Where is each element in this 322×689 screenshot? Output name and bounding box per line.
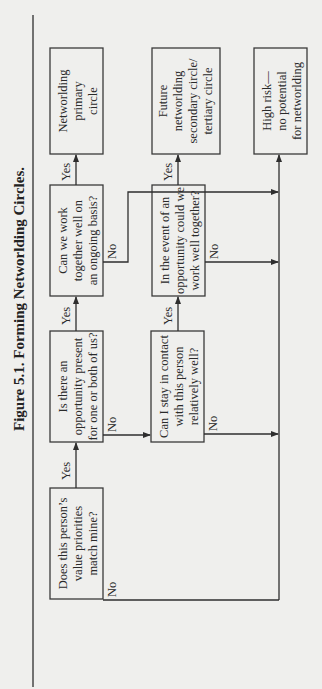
svg-text:for networlding: for networlding bbox=[290, 61, 304, 140]
edge-label-yes: Yes bbox=[59, 163, 73, 181]
svg-text:opportunity could we: opportunity could we bbox=[173, 187, 187, 294]
svg-text:High risk—: High risk— bbox=[260, 71, 274, 131]
svg-text:In the event of an: In the event of an bbox=[158, 196, 172, 284]
svg-text:primary: primary bbox=[71, 80, 85, 120]
svg-text:Does this person’s: Does this person’s bbox=[56, 498, 70, 590]
edge-label-yes: Yes bbox=[59, 307, 73, 325]
svg-text:Future: Future bbox=[156, 84, 170, 117]
svg-text:together well on: together well on bbox=[71, 199, 85, 281]
flowchart: Figure 5.1. Forming Networlding Circles.… bbox=[0, 0, 322, 689]
node-q1: Does this person’s value priorities matc… bbox=[50, 488, 103, 599]
node-q3: Can we work together well on an ongoing … bbox=[50, 185, 103, 296]
svg-text:value priorities: value priorities bbox=[71, 506, 85, 581]
edge-label-yes: Yes bbox=[161, 307, 175, 325]
svg-text:match mine?: match mine? bbox=[86, 511, 100, 576]
svg-text:Is there an: Is there an bbox=[56, 360, 70, 413]
edge-label-no: No bbox=[105, 244, 119, 259]
svg-text:secondary circle/: secondary circle/ bbox=[186, 58, 200, 144]
node-highrisk: High risk— no potential for networlding bbox=[254, 48, 307, 154]
edge-label-yes: Yes bbox=[161, 163, 175, 181]
edge-label-no: No bbox=[207, 244, 221, 259]
node-q5: In the event of an opportunity could we … bbox=[152, 185, 205, 296]
svg-text:no potential: no potential bbox=[275, 71, 289, 131]
svg-text:an ongoing basis?: an ongoing basis? bbox=[86, 195, 100, 285]
svg-text:Can we work: Can we work bbox=[56, 206, 70, 273]
node-future: Future networlding secondary circle/ ter… bbox=[152, 48, 220, 154]
svg-text:Networlding: Networlding bbox=[56, 69, 70, 133]
svg-text:Can I stay in contact: Can I stay in contact bbox=[157, 335, 171, 438]
node-q2: Is there an opportunity present for one … bbox=[50, 331, 103, 442]
edge-label-no: No bbox=[105, 417, 119, 432]
svg-text:relatively well?: relatively well? bbox=[187, 347, 201, 425]
edge-label-no: No bbox=[206, 416, 220, 431]
svg-text:tertiary circle: tertiary circle bbox=[201, 67, 215, 134]
edge-label-no: No bbox=[105, 582, 119, 597]
rotated-figure: Figure 5.1. Forming Networlding Circles.… bbox=[0, 0, 322, 689]
svg-text:with this person: with this person bbox=[172, 346, 186, 427]
svg-text:circle: circle bbox=[86, 87, 100, 115]
svg-text:opportunity present: opportunity present bbox=[71, 337, 85, 435]
node-q4: Can I stay in contact with this person r… bbox=[151, 331, 204, 442]
svg-text:networlding: networlding bbox=[171, 70, 185, 131]
svg-text:for one or both of us?: for one or both of us? bbox=[86, 332, 100, 440]
figure-title: Figure 5.1. Forming Networlding Circles. bbox=[11, 167, 27, 431]
edge-label-yes: Yes bbox=[59, 462, 73, 480]
node-primary: Networlding primary circle bbox=[50, 48, 103, 154]
svg-text:work well together?: work well together? bbox=[188, 190, 202, 290]
